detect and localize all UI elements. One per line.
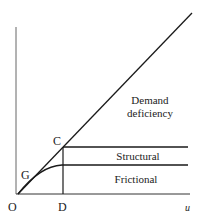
label-g: G [21,168,30,182]
label-d: D [58,200,67,214]
label-c: C [53,134,61,148]
unemployment-diagram: O G C D u Demand deficiency Structural F… [0,0,201,221]
label-deficiency: deficiency [127,107,173,119]
frictional-curve [18,165,188,194]
label-demand: Demand [131,94,169,106]
label-structural: Structural [116,150,159,162]
label-frictional: Frictional [115,173,158,185]
label-origin: O [8,200,17,214]
label-u: u [185,202,190,213]
